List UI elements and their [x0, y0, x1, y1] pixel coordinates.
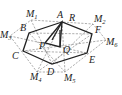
label-A: A: [56, 9, 64, 20]
label-D: D: [46, 66, 55, 77]
label-Q: Q: [63, 44, 71, 55]
label-M4: M4: [29, 71, 42, 83]
label-R: R: [68, 12, 75, 23]
label-M1: M1: [25, 8, 38, 20]
label-E: E: [88, 54, 95, 65]
label-B: B: [20, 22, 26, 33]
label-M6: M6: [105, 36, 118, 48]
label-C: C: [12, 50, 19, 61]
triangle-apq: [45, 22, 62, 47]
label-P: P: [38, 40, 45, 51]
label-M3: M3: [0, 29, 12, 41]
label-F: F: [94, 24, 102, 35]
geometry-diagram: A R B F C E D P Q M1 M2 M3 M6 M4 M5: [0, 0, 122, 95]
label-M2: M2: [93, 13, 106, 25]
label-M5: M5: [63, 72, 76, 84]
